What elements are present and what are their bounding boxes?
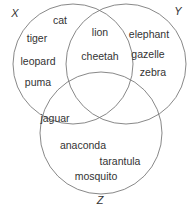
venn-diagram: X Y Z cat tiger leopard puma lion cheeta…: [0, 0, 193, 208]
region-xy-item: lion: [92, 26, 109, 38]
region-x-item: puma: [25, 76, 51, 88]
set-x-label: X: [10, 7, 19, 19]
region-x-item: cat: [53, 14, 67, 26]
region-z-item: mosquito: [75, 170, 118, 182]
region-z-item: tarantula: [100, 155, 141, 167]
region-z-item: anaconda: [60, 139, 106, 151]
set-z-label: Z: [96, 194, 105, 206]
region-y-item: gazelle: [131, 48, 164, 60]
region-y-item: zebra: [140, 66, 166, 78]
region-xz-item: jaguar: [39, 112, 70, 124]
region-y-item: elephant: [129, 28, 169, 40]
region-xy-item: cheetah: [81, 50, 119, 62]
set-y-label: Y: [174, 5, 182, 17]
region-x-item: leopard: [20, 55, 55, 67]
region-x-item: tiger: [27, 32, 48, 44]
set-y-circle: [66, 4, 186, 124]
